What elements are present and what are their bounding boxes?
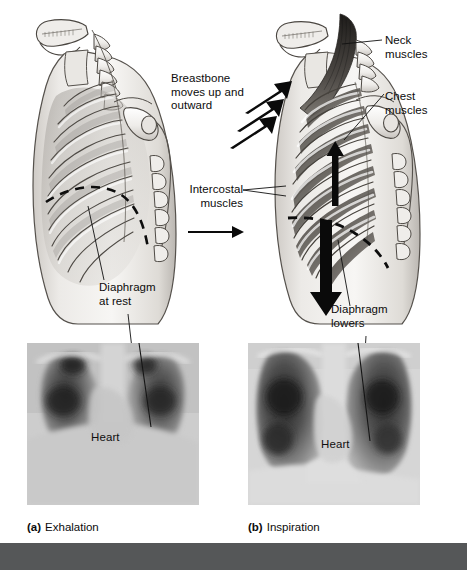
annotation-diaphragm-at-rest: Diaphragm at rest [99, 281, 156, 308]
caption-b-text: Inspiration [267, 521, 320, 533]
annotation-breastbone: Breastbone moves up and outward [171, 72, 244, 113]
annotation-intercostal-muscles: Intercostal muscles [175, 183, 243, 210]
respiration-figure: Breastbone moves up and outward Neck mus… [0, 0, 467, 570]
footer-bar [0, 543, 467, 570]
caption-b-marker: (b) [248, 521, 263, 533]
annotation-neck-muscles: Neck muscles [385, 34, 428, 61]
caption-a: (a)Exhalation [27, 521, 99, 533]
annotation-diaphragm-lowers: Diaphragm lowers [331, 303, 388, 330]
annotation-chest-muscles: Chest muscles [385, 90, 428, 117]
caption-a-text: Exhalation [45, 521, 99, 533]
caption-b: (b)Inspiration [248, 521, 320, 533]
xray-exhalation: Heart [27, 343, 199, 505]
xray-inspiration: Heart [248, 343, 420, 505]
illustration-exhalation [8, 10, 208, 325]
xray-heart-label-left: Heart [91, 431, 120, 443]
caption-a-marker: (a) [27, 521, 41, 533]
xray-heart-label-right: Heart [321, 438, 350, 450]
